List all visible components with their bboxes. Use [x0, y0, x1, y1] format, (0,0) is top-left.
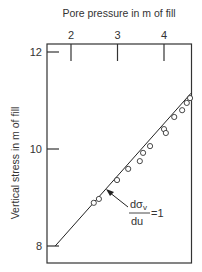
x-tick-label: 3 [114, 29, 120, 41]
x-axis-title: Pore pressure in m of fill [62, 7, 175, 19]
slope-annotation: dσv du =1 [106, 189, 164, 227]
y-ticks: 81012 [30, 46, 59, 252]
data-point [96, 196, 101, 201]
data-point [137, 159, 142, 164]
fit-line [55, 93, 191, 246]
annotation-suffix: =1 [151, 207, 164, 219]
x-tick-label: 2 [68, 29, 74, 41]
annotation-subscript: v [143, 203, 147, 212]
y-tick-label: 12 [30, 46, 42, 58]
data-point [180, 108, 185, 113]
data-point [187, 95, 192, 100]
chart: Pore pressure in m of fill Vertical stre… [0, 0, 202, 272]
data-point [126, 166, 131, 171]
y-tick-label: 8 [36, 240, 42, 252]
annotation-numerator: dσv [130, 198, 147, 212]
data-point [140, 150, 145, 155]
x-tick-label: 4 [161, 29, 167, 41]
x-ticks: 234 [68, 29, 167, 61]
data-point [91, 200, 96, 205]
data-point [114, 177, 119, 182]
data-point [172, 114, 177, 119]
annotation-arrow-shaft [109, 192, 128, 207]
y-axis-title: Vertical stress in m of fill [9, 107, 21, 220]
fit-lines [55, 93, 191, 246]
data-point [163, 130, 168, 135]
data-point [147, 143, 152, 148]
y-tick-label: 10 [30, 143, 42, 155]
annotation-denominator: du [131, 215, 143, 227]
data-point [184, 100, 189, 105]
